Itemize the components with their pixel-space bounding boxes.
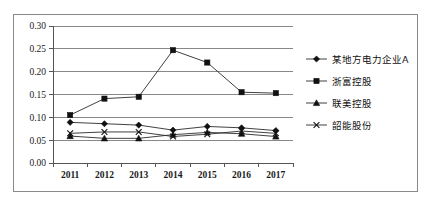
x-tick-label: 2011 — [61, 170, 80, 180]
line-chart: 0.000.050.100.150.200.250.30 20112012201… — [14, 15, 417, 191]
y-axis-group: 0.000.050.100.150.200.250.30 — [29, 21, 53, 168]
legend-label: 韶能股份 — [332, 120, 372, 131]
y-tick-label: 0.30 — [29, 21, 46, 31]
y-tick-label: 0.25 — [29, 44, 46, 54]
x-tick-label: 2013 — [129, 170, 148, 180]
x-tick-label: 2016 — [232, 170, 251, 180]
x-tick-label: 2012 — [95, 170, 114, 180]
gridlines-group — [53, 26, 293, 163]
data-point-diamond — [67, 119, 73, 125]
data-point-square — [68, 112, 73, 117]
data-point-diamond — [136, 122, 142, 128]
legend-label: 某地方电力企业A — [332, 54, 409, 65]
chart-figure: 0.000.050.100.150.200.250.30 20112012201… — [0, 0, 432, 207]
y-tick-label: 0.10 — [29, 113, 46, 123]
data-point-square — [239, 90, 244, 95]
data-point-square — [205, 60, 210, 65]
y-tick-label: 0.00 — [29, 158, 46, 168]
series-line-square — [70, 50, 276, 115]
legend-label: 联美控股 — [332, 98, 372, 109]
chart-frame: 0.000.050.100.150.200.250.30 20112012201… — [13, 14, 418, 192]
data-point-square — [170, 48, 175, 53]
legend-label: 浙富控股 — [332, 76, 372, 87]
legend-marker-diamond — [313, 56, 319, 62]
data-point-square — [273, 91, 278, 96]
y-tick-label: 0.15 — [29, 90, 46, 100]
x-axis-group: 2011201220132014201520162017 — [53, 163, 293, 180]
data-point-diamond — [101, 121, 107, 127]
data-point-square — [136, 94, 141, 99]
legend-group: 某地方电力企业A浙富控股联美控股韶能股份 — [306, 54, 409, 131]
legend-marker-square — [314, 78, 319, 83]
x-tick-label: 2014 — [164, 170, 183, 180]
y-tick-label: 0.20 — [29, 67, 46, 77]
data-point-square — [102, 96, 107, 101]
y-tick-label: 0.05 — [29, 136, 46, 146]
x-tick-label: 2015 — [198, 170, 217, 180]
x-tick-label: 2017 — [266, 170, 285, 180]
